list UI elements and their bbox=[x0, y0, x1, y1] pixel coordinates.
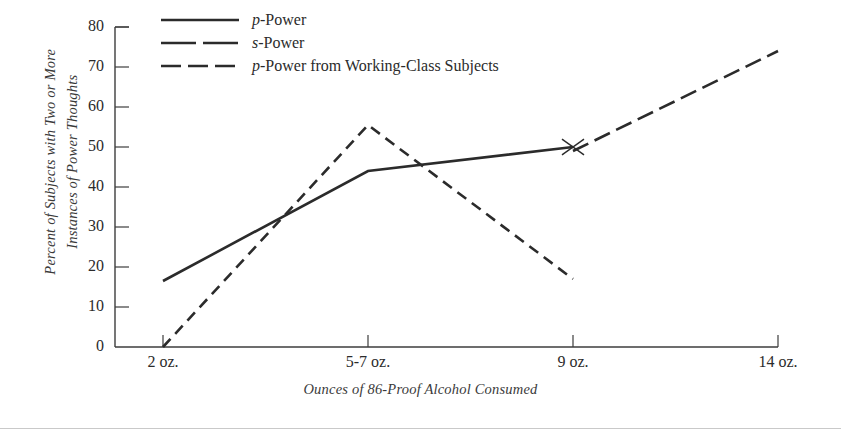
plot-area bbox=[0, 0, 841, 430]
series-line-2 bbox=[573, 51, 778, 151]
chart-figure: Percent of Subjects with Two or More Ins… bbox=[0, 0, 841, 430]
page-bottom-rule bbox=[0, 428, 841, 429]
series-line-0 bbox=[163, 147, 573, 281]
series-line-1 bbox=[163, 125, 573, 347]
